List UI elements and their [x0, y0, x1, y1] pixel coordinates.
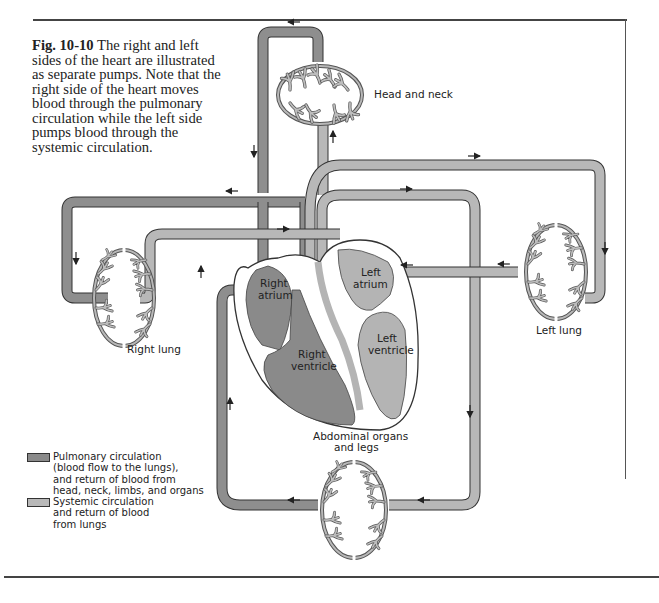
- label-abdominal-2: and legs: [334, 441, 379, 453]
- legend-text: (blood flow to the lungs),: [53, 462, 204, 473]
- label-right-atrium-1: Right: [260, 277, 288, 289]
- label-left-lung: Left lung: [536, 324, 582, 336]
- legend-text: from lungs: [53, 519, 154, 530]
- label-right-ventricle-1: Right: [298, 348, 326, 360]
- label-right-atrium-2: atrium: [258, 289, 293, 301]
- label-left-atrium-2: atrium: [353, 278, 388, 290]
- label-left-atrium-1: Left: [361, 266, 381, 278]
- head-neck-capillary-bed: [278, 65, 362, 125]
- legend-text: head, neck, limbs, and organs: [53, 485, 204, 496]
- left-lung-capillary-bed: [523, 222, 588, 322]
- legend-swatch-systemic: [27, 498, 50, 507]
- label-left-ventricle-1: Left: [377, 332, 397, 344]
- legend-swatch-pulmonary: [27, 453, 50, 462]
- legend: Pulmonary circulation (blood flow to the…: [27, 451, 204, 530]
- abdominal-capillary-bed: [319, 460, 388, 560]
- label-right-ventricle-2: ventricle: [291, 360, 337, 372]
- label-head-and-neck: Head and neck: [374, 88, 454, 100]
- legend-text: Pulmonary circulation: [53, 451, 204, 462]
- legend-text: and return of blood from: [53, 474, 204, 485]
- legend-item-systemic: Systemic circulation and return of blood…: [27, 496, 204, 530]
- label-left-ventricle-2: ventricle: [368, 344, 414, 356]
- legend-text: and return of blood: [53, 507, 154, 518]
- legend-text: Systemic circulation: [53, 496, 154, 507]
- label-right-lung: Right lung: [127, 343, 181, 355]
- legend-item-pulmonary: Pulmonary circulation (blood flow to the…: [27, 451, 204, 496]
